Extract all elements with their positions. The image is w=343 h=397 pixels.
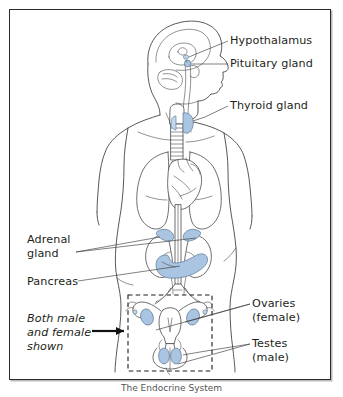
label-ovaries-line2: (female) — [252, 311, 300, 325]
label-testes-line2: (male) — [252, 351, 289, 365]
trachea-thyroid-group — [170, 104, 193, 160]
label-testes-line1: Testes — [252, 337, 287, 351]
figure-caption: The Endocrine System — [0, 383, 343, 397]
leader-hypothalamus — [189, 41, 228, 57]
label-adrenal-gland-line1: Adrenal — [27, 233, 71, 247]
label-adrenal-gland-line2: gland — [27, 247, 59, 261]
label-pituitary-gland: Pituitary gland — [230, 57, 313, 71]
endocrine-system-figure: .ol { fill:none; stroke:#3a3a3a; stroke-… — [0, 0, 343, 397]
thyroid-gland-organ — [183, 113, 193, 133]
label-both-male-female-line2: and female — [27, 326, 91, 340]
testis-right — [171, 348, 182, 364]
label-thyroid-gland: Thyroid gland — [230, 99, 308, 113]
hypothalamus-organ — [183, 55, 188, 59]
testis-left — [159, 348, 170, 364]
label-both-male-female-line3: shown — [27, 340, 64, 354]
label-hypothalamus: Hypothalamus — [230, 34, 312, 48]
head-group — [148, 21, 228, 121]
label-pancreas: Pancreas — [27, 275, 78, 289]
pituitary-gland-organ — [184, 60, 190, 67]
label-both-male-female-line1: Both male — [27, 312, 85, 326]
label-ovaries-line1: Ovaries — [252, 297, 295, 311]
